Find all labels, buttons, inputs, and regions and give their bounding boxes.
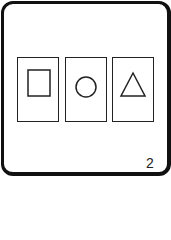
triangle-icon [113, 58, 153, 121]
page-number: 2 [146, 155, 154, 171]
shape-card-square[interactable] [17, 57, 59, 122]
circle-icon [66, 58, 106, 121]
square-icon [18, 58, 58, 121]
shape-card-circle[interactable] [65, 57, 107, 122]
shape-card-triangle[interactable] [112, 57, 154, 122]
